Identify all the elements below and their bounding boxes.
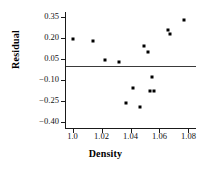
- y-tick-label: 0.20: [44, 33, 59, 42]
- data-point: [143, 44, 146, 47]
- data-point: [125, 101, 128, 104]
- data-point: [168, 33, 171, 36]
- data-point: [150, 75, 153, 78]
- data-point: [138, 106, 141, 109]
- y-tick-mark: [61, 80, 65, 81]
- y-tick-label: 0.05: [44, 54, 59, 63]
- y-tick-label: −0.10: [39, 75, 59, 84]
- y-tick-mark: [61, 17, 65, 18]
- data-point: [118, 60, 121, 63]
- x-axis-title: Density: [0, 148, 211, 159]
- y-axis-line: [65, 12, 66, 129]
- y-tick-mark: [61, 59, 65, 60]
- data-point: [166, 29, 169, 32]
- x-tick-label: 1.06: [152, 131, 167, 141]
- y-axis-tick-labels: 0.350.200.05−0.10−0.25−0.40: [0, 0, 59, 171]
- x-tick-label: 1.08: [181, 131, 196, 141]
- y-tick-label: −0.25: [39, 96, 59, 105]
- y-tick-mark: [61, 101, 65, 102]
- residual-vs-density-scatter-chart: Residual 0.350.200.05−0.10−0.25−0.40 1.0…: [0, 0, 211, 171]
- data-point: [153, 89, 156, 92]
- x-tick-label: 1.04: [123, 131, 138, 141]
- data-point: [148, 89, 151, 92]
- y-tick-mark: [61, 122, 65, 123]
- y-tick-label: 0.35: [44, 12, 59, 21]
- data-point: [72, 37, 75, 40]
- zero-reference-line: [66, 66, 196, 67]
- data-point: [92, 40, 95, 43]
- data-point: [131, 87, 134, 90]
- y-tick-mark: [61, 38, 65, 39]
- data-point: [103, 59, 106, 62]
- x-tick-label: 1.02: [94, 131, 109, 141]
- data-point: [182, 18, 185, 21]
- x-tick-label: 1.0: [67, 131, 78, 141]
- data-point: [147, 51, 150, 54]
- y-tick-label: −0.40: [39, 117, 59, 126]
